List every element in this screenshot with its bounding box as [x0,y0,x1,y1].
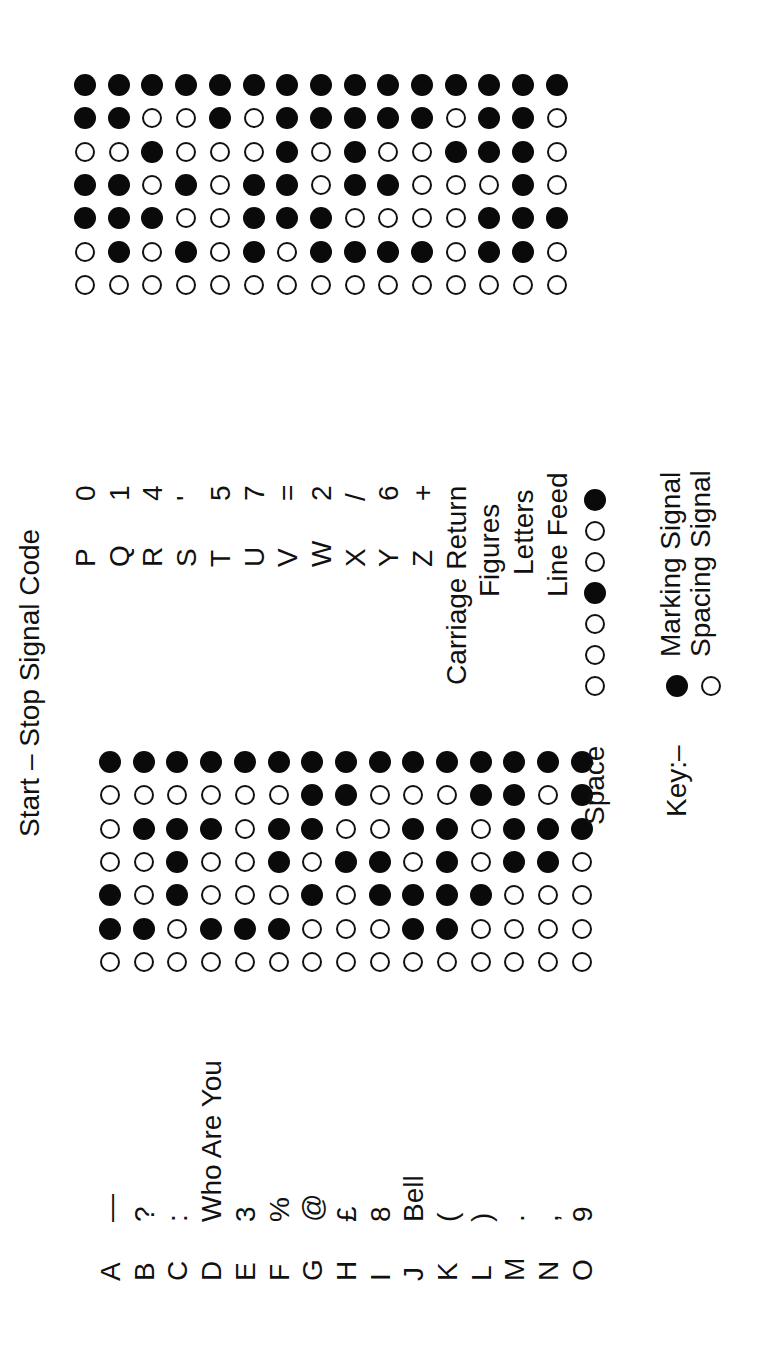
figure-label: 5 [204,485,237,501]
marking-dot-icon [436,918,458,940]
marking-dot-icon [200,751,222,773]
spacing-dot-icon [471,919,491,939]
marking-dot-icon [301,785,323,807]
marking-dot-icon [436,851,458,873]
spacing-dot-icon [412,275,432,295]
spacing-dot-icon [403,786,423,806]
spacing-dot-icon [538,885,558,905]
letter-label: T [204,550,237,567]
letter-label: R [136,547,169,567]
marking-dot-icon [512,241,534,263]
marking-dot-icon [503,851,525,873]
marking-dot-icon [335,785,357,807]
spacing-dot-icon [504,952,524,972]
marking-dot-icon [166,884,188,906]
marking-dot-icon [74,207,96,229]
spacing-dot-icon [100,819,120,839]
marking-dot-icon [99,751,121,773]
marking-dot-icon [243,207,265,229]
spacing-dot-icon [585,552,605,572]
spacing-dot-icon [311,142,331,162]
spacing-dot-icon [176,142,196,162]
marking-dot-icon [99,884,121,906]
spacing-dot-icon [109,142,129,162]
spacing-dot-icon [538,786,558,806]
spacing-dot-icon [134,852,154,872]
marking-dot-icon [503,785,525,807]
figure-label: . [498,1214,531,1222]
figure-label: Bell [397,1175,430,1222]
spacing-dot-icon [142,242,162,262]
marking-dot-icon [411,74,433,96]
spacing-dot-icon [167,919,187,939]
letter-label: L [465,1265,498,1281]
marking-dot-icon [175,174,197,196]
marking-dot-icon [108,207,130,229]
marking-dot-icon [99,918,121,940]
spacing-dot-icon [75,142,95,162]
spacing-dot-icon [585,614,605,634]
letter-label: X [339,548,372,567]
marking-dot-icon [436,818,458,840]
marking-dot-icon [402,918,424,940]
spacing-dot-icon [100,952,120,972]
marking-dot-icon [175,241,197,263]
spacing-dot-icon [370,919,390,939]
figure-label: 0 [69,485,102,501]
letter-label: P [69,548,102,567]
letter-label: S [170,548,203,567]
marking-dot-icon [512,108,534,130]
marking-dot-icon [335,851,357,873]
marking-dot-icon [108,108,130,130]
letter-label: G [296,1259,329,1281]
letter-label: M [498,1258,531,1281]
marking-dot-icon [584,582,606,604]
marking-dot-icon [301,884,323,906]
spacing-dot-icon [370,952,390,972]
marking-dot-icon [478,74,500,96]
marking-dot-icon [377,174,399,196]
signal-code-diagram: Start – Stop Signal Code A—B?C:DWho Are … [0,0,777,1357]
spacing-dot-icon [370,786,390,806]
spacing-dot-icon [244,275,264,295]
spacing-dot-icon [572,952,592,972]
key-label: Key:– [660,745,693,817]
spacing-dot-icon [479,275,499,295]
marking-dot-icon [74,74,96,96]
letter-label: O [566,1259,599,1281]
marking-dot-icon [402,818,424,840]
marking-dot-icon [310,241,332,263]
spacing-dot-icon [235,952,255,972]
marking-dot-icon [243,241,265,263]
marking-dot-icon [411,241,433,263]
spacing-dot-icon [446,275,466,295]
marking-dot-icon [402,751,424,773]
marking-dot-icon [133,818,155,840]
spacing-dot-icon [446,242,466,262]
figure-label: 6 [372,485,405,501]
marking-dot-icon [436,751,458,773]
letter-label: I [364,1273,397,1281]
figure-label: 1 [103,485,136,501]
spacing-dot-icon [471,819,491,839]
marking-dot-icon [335,751,357,773]
marking-dot-icon [268,751,290,773]
spacing-dot-icon [311,175,331,195]
marking-dot-icon [478,241,500,263]
marking-dot-icon [402,884,424,906]
spacing-dot-icon [538,952,558,972]
marking-dot-icon [141,141,163,163]
spacing-dot-icon [109,275,129,295]
marking-dot-icon [503,818,525,840]
spacing-dot-icon [513,275,533,295]
figure-label: Line Feed [541,472,574,597]
marking-dot-icon [512,74,534,96]
marking-dot-icon [133,918,155,940]
spacing-dot-icon [235,852,255,872]
marking-dot-icon [584,489,606,511]
spacing-dot-icon [244,142,264,162]
spacing-dot-icon [336,952,356,972]
figure-label: Who Are You [195,1060,228,1222]
spacing-dot-icon [471,952,491,972]
marking-dot-icon [369,851,391,873]
